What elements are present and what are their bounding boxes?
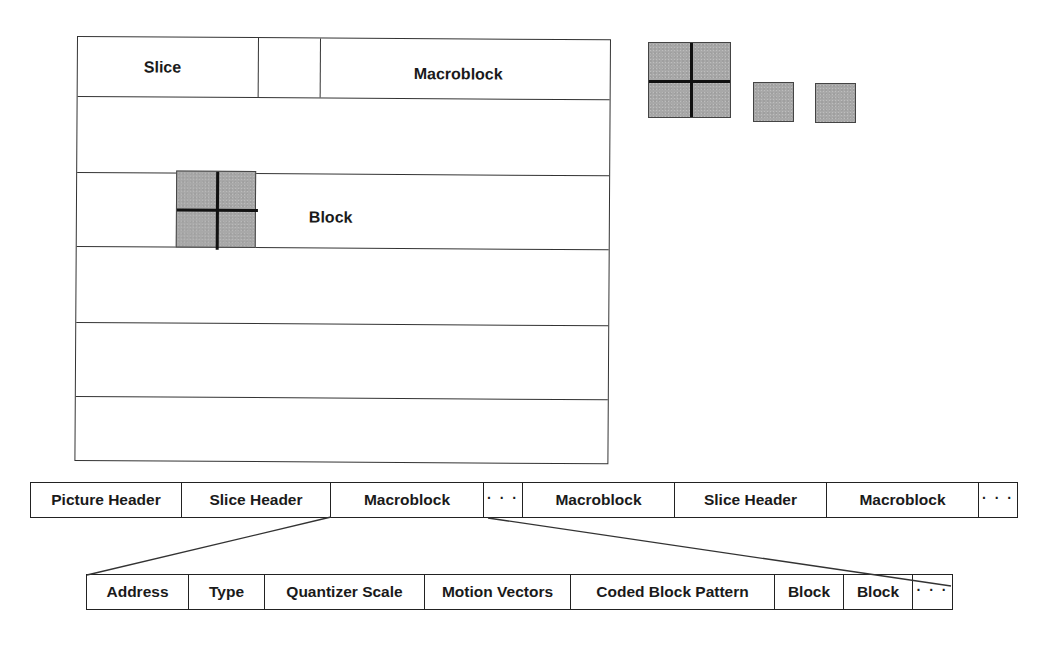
picture-header-cell: Picture Header [31, 483, 182, 517]
ellipsis-cell: · · · [913, 575, 952, 609]
macroblock-quad-icon [176, 171, 256, 248]
chroma-block-cr-icon [815, 83, 856, 123]
type-cell: Type [189, 575, 265, 609]
macroblock-cell: Macroblock [827, 483, 979, 517]
connector-left-line [87, 517, 331, 575]
block-label: Block [309, 208, 353, 226]
slice-row-6 [75, 397, 607, 464]
quad-divider-vertical [690, 43, 693, 117]
slice-divider [258, 38, 259, 97]
slice-header-cell: Slice Header [182, 483, 331, 517]
slice-row-4 [76, 247, 608, 326]
picture-bitstream: Picture Header Slice Header Macroblock ·… [30, 482, 1018, 518]
ellipsis-cell: · · · [979, 483, 1017, 517]
ellipsis-cell: · · · [484, 483, 523, 517]
address-cell: Address [87, 575, 189, 609]
slice-header-cell: Slice Header [675, 483, 827, 517]
slice-row-2 [77, 97, 609, 176]
slice-row-3: Block [77, 173, 609, 250]
slice-row-5 [76, 323, 608, 400]
picture-frame: Slice Macroblock Block [74, 36, 611, 464]
macroblock-cell: Macroblock [331, 483, 484, 517]
motion-vectors-cell: Motion Vectors [425, 575, 571, 609]
macroblock-legend-icon [648, 42, 731, 118]
macroblock-label: Macroblock [414, 65, 503, 84]
block-cell: Block [844, 575, 913, 609]
block-cell: Block [775, 575, 844, 609]
chroma-block-cb-icon [753, 82, 794, 122]
quantizer-scale-cell: Quantizer Scale [265, 575, 425, 609]
slice-label: Slice [144, 58, 181, 76]
macroblock-divider [320, 38, 321, 97]
macroblock-bitstream: Address Type Quantizer Scale Motion Vect… [86, 574, 953, 610]
quad-divider-vertical [216, 172, 219, 250]
coded-block-pattern-cell: Coded Block Pattern [571, 575, 775, 609]
macroblock-cell: Macroblock [523, 483, 675, 517]
slice-row-1: Slice Macroblock [78, 37, 610, 100]
